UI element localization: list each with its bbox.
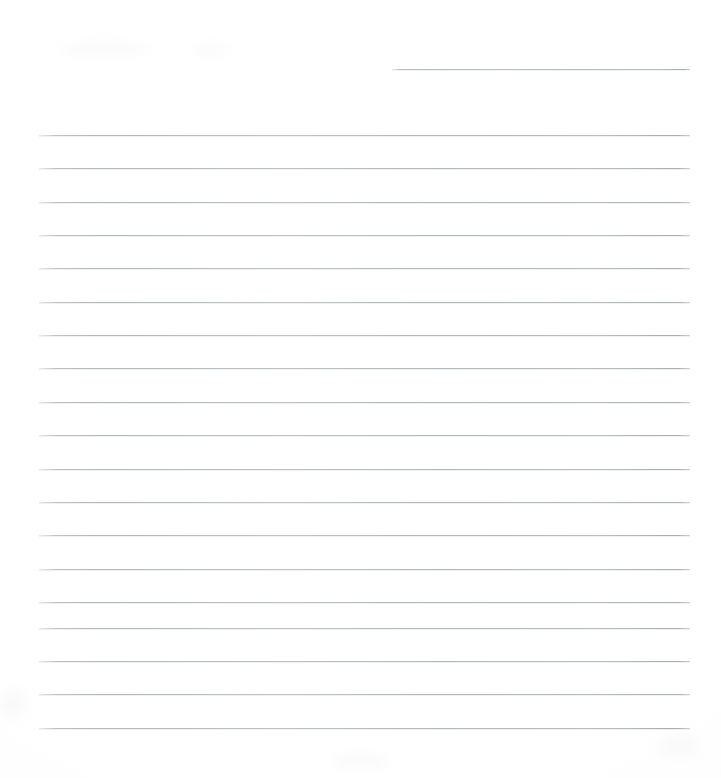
body-rule-3 bbox=[39, 202, 690, 203]
body-rule-9 bbox=[39, 402, 690, 403]
body-rule-15 bbox=[39, 602, 690, 603]
body-rule-7 bbox=[39, 335, 690, 336]
body-rule-1 bbox=[39, 135, 690, 136]
scan-blemish-1 bbox=[60, 44, 150, 54]
body-rule-12 bbox=[39, 502, 690, 503]
body-rule-17 bbox=[39, 661, 690, 662]
scan-blemish-5 bbox=[660, 735, 698, 757]
body-rule-13 bbox=[39, 535, 690, 536]
body-rule-10 bbox=[39, 435, 690, 436]
body-rule-4 bbox=[39, 235, 690, 236]
body-rule-19 bbox=[39, 728, 690, 729]
scan-blemish-2 bbox=[190, 46, 230, 54]
body-rule-6 bbox=[39, 302, 690, 303]
body-rule-18 bbox=[39, 694, 690, 695]
body-rule-8 bbox=[39, 368, 690, 369]
body-rule-2 bbox=[39, 168, 690, 169]
body-rule-14 bbox=[39, 569, 690, 570]
date-line-rule bbox=[392, 69, 690, 70]
body-rule-11 bbox=[39, 469, 690, 470]
body-rule-5 bbox=[39, 268, 690, 269]
scanned-page bbox=[0, 0, 721, 778]
scan-blemish-4 bbox=[330, 756, 390, 768]
body-rule-16 bbox=[39, 628, 690, 629]
scan-blemish-3 bbox=[0, 690, 26, 716]
